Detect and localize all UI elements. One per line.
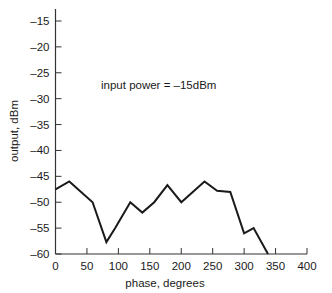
y-axis-label: output, dBm: [8, 100, 20, 162]
x-tick-label: 300: [235, 260, 254, 272]
y-tick-label: –60: [30, 248, 49, 260]
x-tick-label: 350: [266, 260, 285, 272]
x-tick-label: 0: [52, 260, 58, 272]
x-tick-label: 250: [203, 260, 222, 272]
y-tick-label: –30: [30, 93, 49, 105]
y-tick-label: –40: [30, 144, 49, 156]
y-tick-label: –25: [30, 67, 49, 79]
data-series: [56, 182, 269, 255]
x-tick-label: 50: [81, 260, 94, 272]
x-tick-label: 100: [109, 260, 128, 272]
y-tick-label: –15: [30, 15, 49, 27]
y-tick-label: –20: [30, 41, 49, 53]
x-tick-label: 200: [172, 260, 191, 272]
y-tick-label: –35: [30, 119, 49, 131]
line-chart: –15–20–25–30–35–40–45–50–55–60 050100150…: [0, 0, 332, 293]
series-line-output: [56, 182, 269, 255]
y-tick-label: –50: [30, 196, 49, 208]
x-tick-label: 150: [140, 260, 159, 272]
y-axis-ticks: –15–20–25–30–35–40–45–50–55–60: [30, 15, 61, 260]
x-tick-label: 400: [297, 260, 316, 272]
y-tick-label: –45: [30, 170, 49, 182]
x-axis-label: phase, degrees: [125, 277, 205, 289]
y-tick-label: –55: [30, 222, 49, 234]
x-axis-ticks: 050100150200250300350400: [52, 248, 316, 272]
annotation-input-power: input power = –15dBm: [101, 79, 216, 91]
